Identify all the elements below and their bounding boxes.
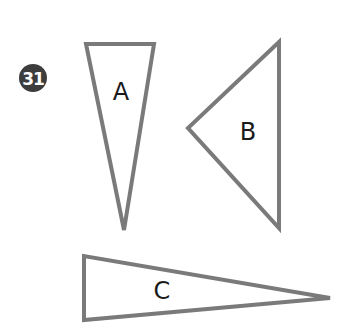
problem-number-badge: 31	[19, 64, 47, 92]
triangle-c: C	[84, 256, 330, 320]
problem-number: 31	[22, 69, 44, 89]
triangle-a-label: A	[113, 78, 130, 106]
triangle-a: A	[86, 44, 154, 230]
triangle-c-shape	[84, 256, 330, 320]
triangle-b: B	[188, 42, 279, 228]
triangle-a-shape	[86, 44, 154, 230]
triangle-c-label: C	[154, 277, 171, 305]
triangle-b-label: B	[240, 118, 256, 146]
figure-canvas: 31 A B C	[0, 0, 348, 335]
triangle-b-shape	[188, 42, 279, 228]
